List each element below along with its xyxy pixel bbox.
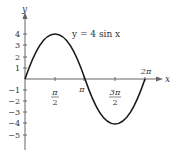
- svg-text:π: π: [51, 88, 58, 97]
- y-tick-labels: 4 3 2 1 −1 −2 −3 −4 −5: [8, 30, 20, 140]
- x-axis-label: x: [165, 74, 170, 84]
- y-axis-label: y: [21, 4, 28, 14]
- svg-text:−3: −3: [8, 108, 20, 117]
- sine-chart: 4 3 2 1 −1 −2 −3 −4 −5 y x π 2 π 3π 2 2π…: [0, 0, 175, 157]
- svg-text:−5: −5: [8, 131, 20, 140]
- svg-text:2: 2: [52, 98, 57, 107]
- svg-text:−1: −1: [8, 86, 20, 95]
- x-axis-arrow-icon: [156, 77, 163, 82]
- svg-text:π: π: [78, 85, 85, 94]
- svg-text:3π: 3π: [110, 88, 121, 97]
- equation-label: y = 4 sin x: [71, 29, 120, 39]
- svg-text:2: 2: [15, 53, 20, 62]
- svg-text:2: 2: [112, 98, 117, 107]
- svg-text:1: 1: [15, 64, 20, 73]
- svg-text:3: 3: [15, 41, 20, 50]
- svg-text:−2: −2: [8, 97, 20, 106]
- svg-text:−4: −4: [8, 119, 20, 128]
- svg-text:2π: 2π: [140, 67, 152, 76]
- svg-text:4: 4: [15, 30, 20, 39]
